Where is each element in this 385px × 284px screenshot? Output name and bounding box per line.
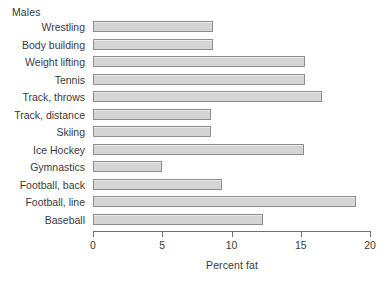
bar-row: Football, back bbox=[93, 179, 370, 197]
bar-category-label: Baseball bbox=[45, 214, 85, 226]
x-axis-tick-label: 5 bbox=[159, 239, 165, 251]
x-axis-tick-label: 0 bbox=[90, 239, 96, 251]
x-axis-tick-label: 20 bbox=[364, 239, 376, 251]
bar bbox=[93, 39, 213, 50]
chart-title: Males bbox=[12, 6, 41, 18]
bar bbox=[93, 91, 322, 102]
bar bbox=[93, 214, 263, 225]
bar-category-label: Football, back bbox=[20, 179, 85, 191]
bar-category-label: Track, throws bbox=[22, 91, 85, 103]
bar-category-label: Tennis bbox=[55, 74, 85, 86]
bar-row: Body building bbox=[93, 39, 370, 57]
x-axis-tick bbox=[232, 232, 233, 237]
bar-row: Skiing bbox=[93, 126, 370, 144]
bar-row: Tennis bbox=[93, 74, 370, 92]
bar-category-label: Wrestling bbox=[41, 21, 85, 33]
bar bbox=[93, 144, 304, 155]
bar-row: Gymnastics bbox=[93, 161, 370, 179]
bar-category-label: Weight lifting bbox=[25, 56, 85, 68]
x-axis-tick bbox=[301, 232, 302, 237]
bar bbox=[93, 56, 305, 67]
x-axis-tick bbox=[370, 232, 371, 237]
x-axis-tick-label: 10 bbox=[226, 239, 238, 251]
x-axis-tick-label: 15 bbox=[295, 239, 307, 251]
bar-category-label: Gymnastics bbox=[30, 161, 85, 173]
bar bbox=[93, 126, 211, 137]
bar-row: Weight lifting bbox=[93, 56, 370, 74]
bar-row: Football, line bbox=[93, 196, 370, 214]
bar-category-label: Body building bbox=[22, 39, 85, 51]
bar-row: Track, throws bbox=[93, 91, 370, 109]
x-axis-tick bbox=[93, 232, 94, 237]
bar bbox=[93, 21, 213, 32]
bar-category-label: Football, line bbox=[25, 196, 85, 208]
bar-chart: Males WrestlingBody buildingWeight lifti… bbox=[0, 0, 385, 284]
bar-row: Track, distance bbox=[93, 109, 370, 127]
bar-category-label: Track, distance bbox=[14, 109, 85, 121]
bar bbox=[93, 161, 162, 172]
bar bbox=[93, 74, 305, 85]
bar-row: Wrestling bbox=[93, 21, 370, 39]
bar bbox=[93, 109, 211, 120]
x-axis-title: Percent fat bbox=[93, 259, 371, 271]
bar-category-label: Ice Hockey bbox=[33, 144, 85, 156]
bar bbox=[93, 196, 356, 207]
bar bbox=[93, 179, 222, 190]
x-axis-tick bbox=[162, 232, 163, 237]
bar-row: Ice Hockey bbox=[93, 144, 370, 162]
plot-area: WrestlingBody buildingWeight liftingTenn… bbox=[93, 21, 370, 232]
bar-category-label: Skiing bbox=[56, 126, 85, 138]
bar-row: Baseball bbox=[93, 214, 370, 232]
